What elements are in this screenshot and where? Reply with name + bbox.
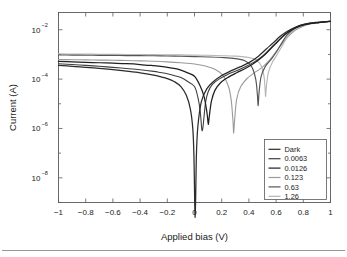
y-axis-title: Current (A) [7, 84, 18, 131]
x-tick-label: −0.2 [159, 208, 175, 217]
svg-text:10: 10 [32, 26, 41, 35]
svg-text:−4: −4 [42, 72, 48, 78]
jv-curve-chart: −1−0.8−0.6−0.4−0.200.20.40.60.81 10−210−… [0, 0, 347, 257]
svg-text:−8: −8 [42, 170, 48, 176]
x-axis-title: Applied bias (V) [161, 231, 228, 242]
legend-label-1-26: 1.26 [285, 192, 299, 201]
x-tick-label: −0.6 [105, 208, 121, 217]
chart-legend: Dark0.00630.01260.1230.631.26 [265, 140, 327, 202]
x-tick-label: −1 [54, 208, 64, 217]
legend-label-0-0126: 0.0126 [285, 164, 308, 173]
x-tick-label: 0.6 [271, 208, 283, 217]
x-tick-label: −0.8 [78, 208, 94, 217]
legend-label-0-0063: 0.0063 [285, 154, 308, 163]
x-tick-label: 0.2 [216, 208, 228, 217]
figure-background [0, 0, 347, 257]
svg-text:−2: −2 [42, 22, 48, 28]
legend-label-dark: Dark [285, 145, 301, 154]
svg-text:10: 10 [32, 75, 41, 84]
x-tick-label: 0 [192, 208, 197, 217]
legend-label-0-123: 0.123 [285, 173, 304, 182]
x-tick-label: 1 [328, 208, 333, 217]
svg-text:10: 10 [32, 174, 41, 183]
x-tick-label: 0.4 [243, 208, 255, 217]
x-tick-label: 0.8 [298, 208, 310, 217]
x-tick-label: −0.4 [132, 208, 148, 217]
legend-label-0-63: 0.63 [285, 183, 299, 192]
figure-container: −1−0.8−0.6−0.4−0.200.20.40.60.81 10−210−… [0, 0, 347, 257]
svg-text:−6: −6 [42, 121, 48, 127]
svg-text:10: 10 [32, 124, 41, 133]
